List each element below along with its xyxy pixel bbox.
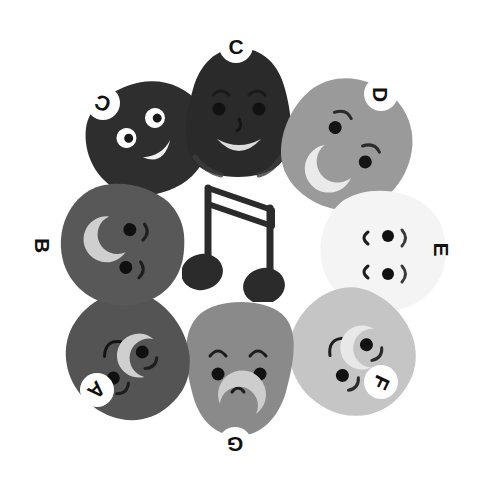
label-a-text: A <box>84 377 110 403</box>
beamed-eighth-notes-icon <box>182 172 297 306</box>
label-e: E <box>424 232 458 266</box>
label-c-top: C <box>219 29 253 63</box>
label-g: G <box>218 427 252 461</box>
label-b: B <box>26 228 60 262</box>
label-d-text: D <box>370 86 391 101</box>
label-g-text: G <box>227 434 243 455</box>
label-e-text: E <box>430 242 451 256</box>
label-c-top-text: C <box>228 36 243 57</box>
label-c-upper-left-text: C <box>92 91 113 116</box>
label-f-text: F <box>369 372 393 393</box>
label-b-text: B <box>32 237 53 252</box>
character-shape-b <box>56 182 190 312</box>
label-a: A <box>80 373 114 407</box>
label-c-upper-left: C <box>86 86 120 120</box>
illustration-canvas: A B C C D E F G <box>0 0 478 485</box>
character-shape-a <box>60 292 194 426</box>
label-f: F <box>364 365 398 399</box>
label-d: D <box>364 77 398 111</box>
